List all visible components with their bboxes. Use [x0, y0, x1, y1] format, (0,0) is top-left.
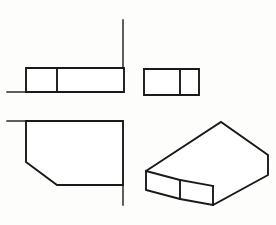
top-view [7, 121, 123, 205]
front-view-fill [26, 68, 124, 92]
side-view-fill [144, 69, 199, 95]
drawing-sheet [0, 0, 276, 225]
side-view [144, 69, 199, 95]
top-view-fill [26, 121, 123, 185]
technical-drawing-canvas [0, 0, 276, 225]
front-view [7, 68, 124, 92]
pictorial-view [146, 122, 268, 205]
